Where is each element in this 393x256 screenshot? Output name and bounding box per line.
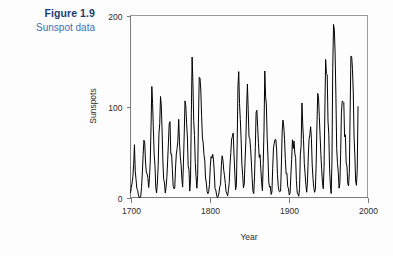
y-tick-label: 200 <box>108 12 122 22</box>
chart-svg: 0100200 1700180019002000 Sunspots Year <box>0 0 393 256</box>
x-tick-label: 1800 <box>201 206 220 216</box>
x-tick-label: 1700 <box>122 206 141 216</box>
figure-page: Figure 1.9 Sunspot data 0100200 17001800… <box>0 0 393 256</box>
y-axis-ticks: 0100200 <box>108 12 130 204</box>
x-axis-title: Year <box>240 232 257 242</box>
sunspot-chart: 0100200 1700180019002000 Sunspots Year <box>0 0 393 256</box>
x-tick-label: 1900 <box>280 206 299 216</box>
x-axis-ticks: 1700180019002000 <box>122 198 378 216</box>
y-tick-label: 0 <box>118 194 123 204</box>
sunspot-series-line <box>131 24 359 197</box>
y-axis-title: Sunspots <box>88 88 98 123</box>
x-tick-label: 2000 <box>359 206 378 216</box>
y-tick-label: 100 <box>108 103 122 113</box>
